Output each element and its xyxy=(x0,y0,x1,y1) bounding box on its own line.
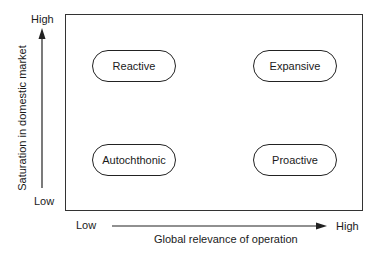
x-axis-title: Global relevance of operation xyxy=(154,233,298,245)
quadrant-label: Expansive xyxy=(270,60,321,72)
quadrant-label: Reactive xyxy=(113,60,156,72)
matrix-frame xyxy=(65,14,363,211)
y-axis-title: Saturation in domestic market xyxy=(16,45,28,191)
quadrant-proactive: Proactive xyxy=(253,144,337,176)
quadrant-label: Autochthonic xyxy=(102,154,166,166)
quadrant-autochthonic: Autochthonic xyxy=(92,144,176,176)
quadrant-label: Proactive xyxy=(272,154,318,166)
x-axis-high-label: High xyxy=(336,220,359,232)
quadrant-expansive: Expansive xyxy=(253,50,337,82)
x-axis-low-label: Low xyxy=(76,219,96,231)
y-axis-low-label: Low xyxy=(34,195,54,207)
y-axis-high-label: High xyxy=(31,13,54,25)
quadrant-reactive: Reactive xyxy=(92,50,176,82)
